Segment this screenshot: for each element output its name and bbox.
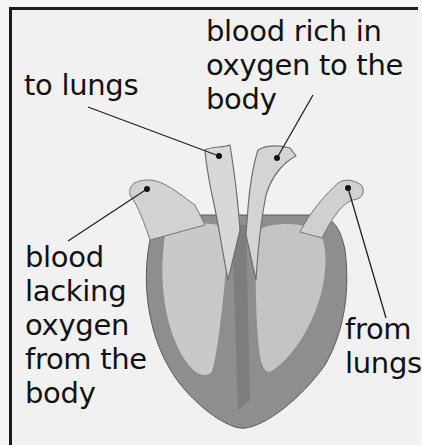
dot-aorta [274,155,280,161]
label-to-lungs: to lungs [24,68,138,102]
leader-from-lungs [348,188,386,318]
dot-pulmonary-vein [345,185,351,191]
label-oxygen-poor: blood lacking oxygen from the body [25,240,147,410]
dot-vena-cava [144,186,150,192]
leader-to-lungs [88,107,219,156]
dot-pulmonary-artery [216,153,222,159]
label-from-lungs: from lungs [345,312,422,380]
label-oxygen-rich: blood rich in oxygen to the body [206,14,403,116]
leader-oxygen-poor [68,189,147,241]
